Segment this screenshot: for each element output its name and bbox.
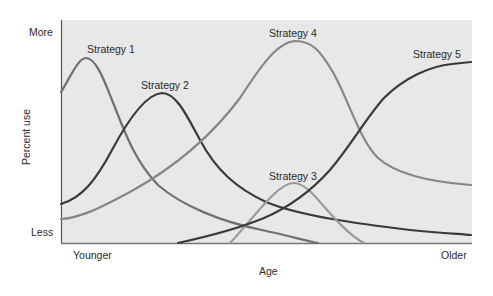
label-strategy-3: Strategy 3 (269, 170, 317, 182)
x-axis-title: Age (259, 265, 278, 277)
y-axis-title: Percent use (20, 109, 32, 165)
label-strategy-4: Strategy 4 (269, 27, 317, 39)
label-strategy-1: Strategy 1 (87, 43, 135, 55)
y-tick-more: More (29, 26, 53, 38)
developmental-strategies-chart: More Less Percent use Younger Older Age … (0, 0, 493, 296)
y-tick-less: Less (31, 226, 53, 238)
x-tick-younger: Younger (73, 249, 112, 261)
label-strategy-5: Strategy 5 (413, 48, 461, 60)
x-tick-older: Older (441, 249, 467, 261)
label-strategy-2: Strategy 2 (141, 79, 189, 91)
